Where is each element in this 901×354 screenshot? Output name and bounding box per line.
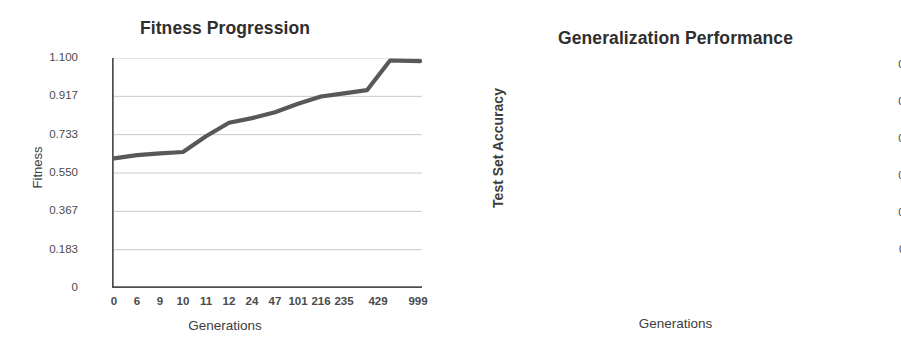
yaxis-title-fitness: Fitness xyxy=(30,128,45,208)
chart-title-generalization-performance: Generalization Performance xyxy=(450,28,901,49)
ytick-fitness-0: 1.100 xyxy=(18,52,78,64)
xtick-fitness-9: 216 xyxy=(311,296,330,308)
ytick-generalization-4: 0.233 xyxy=(867,207,901,219)
plot-area-fitness-progression: 1.100 0.917 0.733 0.550 0.367 0.183 0 xyxy=(112,58,422,288)
ytick-generalization-0: 0.700 xyxy=(867,59,901,71)
xtick-fitness-10: 235 xyxy=(334,296,353,308)
xaxis-title-generalization: Generations xyxy=(450,316,901,331)
ytick-fitness-6: 0 xyxy=(18,282,78,294)
chart-title-fitness-progression: Fitness Progression xyxy=(0,18,450,39)
ytick-generalization-6: 0 xyxy=(867,281,901,293)
xtick-fitness-11: 429 xyxy=(368,296,387,308)
yaxis-title-generalization: Test Set Accuracy xyxy=(490,78,506,218)
plot-svg-fitness xyxy=(112,58,422,288)
xtick-fitness-1: 6 xyxy=(134,296,140,308)
xtick-fitness-6: 24 xyxy=(246,296,259,308)
figure-canvas: Fitness Progression 1.100 0.917 xyxy=(0,0,901,354)
data-series-fitness xyxy=(114,61,420,159)
xaxis-title-fitness: Generations xyxy=(0,318,450,333)
xtick-fitness-0: 0 xyxy=(111,296,117,308)
xtick-fitness-5: 12 xyxy=(223,296,236,308)
xtick-fitness-7: 47 xyxy=(269,296,282,308)
ytick-generalization-5: 0.117 xyxy=(867,244,901,256)
ytick-generalization-2: 0.467 xyxy=(867,133,901,145)
xtick-fitness-2: 9 xyxy=(157,296,163,308)
ytick-fitness-4: 0.367 xyxy=(18,206,78,218)
ytick-fitness-3: 0.550 xyxy=(18,167,78,179)
ytick-fitness-5: 0.183 xyxy=(18,244,78,256)
xtick-fitness-12: 999 xyxy=(408,296,427,308)
ytick-generalization-1: 0.583 xyxy=(867,96,901,108)
xtick-fitness-4: 11 xyxy=(200,296,212,308)
xtick-fitness-8: 101 xyxy=(288,296,307,308)
ytick-generalization-3: 0.350 xyxy=(867,170,901,182)
ytick-fitness-2: 0.733 xyxy=(18,129,78,141)
chart-panel-fitness-progression: Fitness Progression 1.100 0.917 xyxy=(0,0,450,354)
chart-panel-generalization-performance: Generalization Performance 0.700 0 xyxy=(450,0,901,354)
ytick-fitness-1: 0.917 xyxy=(18,91,78,103)
xtick-fitness-3: 10 xyxy=(177,296,190,308)
